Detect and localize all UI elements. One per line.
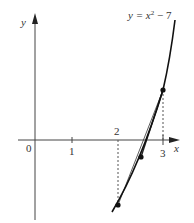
tick-label-3: 3 xyxy=(160,147,166,159)
point-b xyxy=(138,154,143,159)
curve-parabola xyxy=(112,20,175,212)
y-axis-arrow-icon xyxy=(32,13,38,24)
equation-rest: − 7 xyxy=(154,9,172,21)
y-axis-label: y xyxy=(20,16,26,28)
tick-label-2: 2 xyxy=(114,125,120,137)
point-a xyxy=(115,202,120,207)
equation-label: y = x2 − 7 xyxy=(127,9,172,21)
equation-eq: = x xyxy=(133,9,151,21)
origin-label: 0 xyxy=(26,142,32,154)
point-c xyxy=(160,87,165,92)
tick-label-1: 1 xyxy=(69,145,75,157)
x-axis-label: x xyxy=(173,142,179,154)
graph-canvas: y x 0 1 2 3 y = x2 − 7 xyxy=(0,0,194,223)
